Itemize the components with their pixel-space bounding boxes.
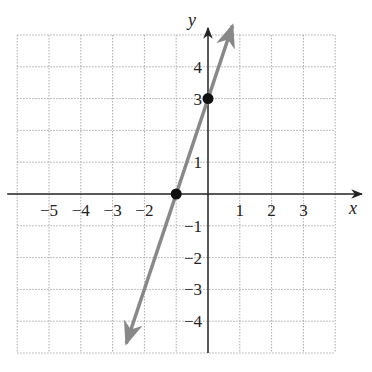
y-tick-label: −2 xyxy=(184,249,202,268)
y-tick-label: −1 xyxy=(184,217,202,236)
point-x-intercept xyxy=(171,189,182,200)
y-tick-label: −4 xyxy=(184,312,203,331)
x-tick-label: −3 xyxy=(104,201,122,220)
coordinate-plane: xy −5−4−3−2123431−1−2−3−4 xyxy=(0,0,372,372)
x-tick-label: −5 xyxy=(40,201,58,220)
line-y-equals-3x-plus-3 xyxy=(126,25,232,343)
y-tick-label: 1 xyxy=(194,153,203,172)
x-tick-label: 2 xyxy=(267,201,276,220)
axes: xy xyxy=(7,10,362,353)
y-tick-label: 4 xyxy=(194,58,203,77)
x-tick-label: 1 xyxy=(236,201,245,220)
x-tick-label: 3 xyxy=(299,201,308,220)
point-y-intercept xyxy=(203,93,214,104)
graph-line xyxy=(126,25,232,343)
x-tick-label: −4 xyxy=(72,201,91,220)
x-tick-label: −2 xyxy=(135,201,153,220)
y-tick-label: −3 xyxy=(184,280,202,299)
y-tick-label: 3 xyxy=(194,90,203,109)
y-axis-label: y xyxy=(186,10,196,30)
x-axis-label: x xyxy=(348,198,357,218)
